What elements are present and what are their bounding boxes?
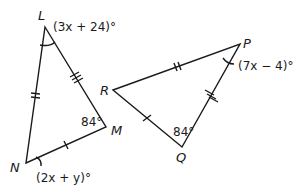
vertex-label-q: Q <box>176 150 186 165</box>
tick-marks-pq <box>205 90 218 102</box>
vertex-label-m: M <box>111 123 122 138</box>
angle-label-l: (3x + 24)° <box>53 20 116 34</box>
diagram-canvas: L M N R P Q (3x + 24)° 84° (2x + y)° (7x… <box>0 0 299 193</box>
triangle-lmn <box>26 27 106 166</box>
vertex-label-p: P <box>243 36 251 51</box>
tick-marks-lm <box>70 72 83 83</box>
vertex-label-l: L <box>38 8 45 23</box>
angle-label-p: (7x − 4)° <box>238 59 293 73</box>
triangle-lmn-outline <box>26 27 106 163</box>
vertex-label-n: N <box>10 160 20 175</box>
angle-label-n: (2x + y)° <box>36 171 91 185</box>
triangles-figure: L M N R P Q (3x + 24)° 84° (2x + y)° (7x… <box>0 0 299 193</box>
angle-label-q: 84° <box>173 125 194 139</box>
angle-label-m: 84° <box>81 115 102 129</box>
vertex-label-r: R <box>100 83 109 98</box>
